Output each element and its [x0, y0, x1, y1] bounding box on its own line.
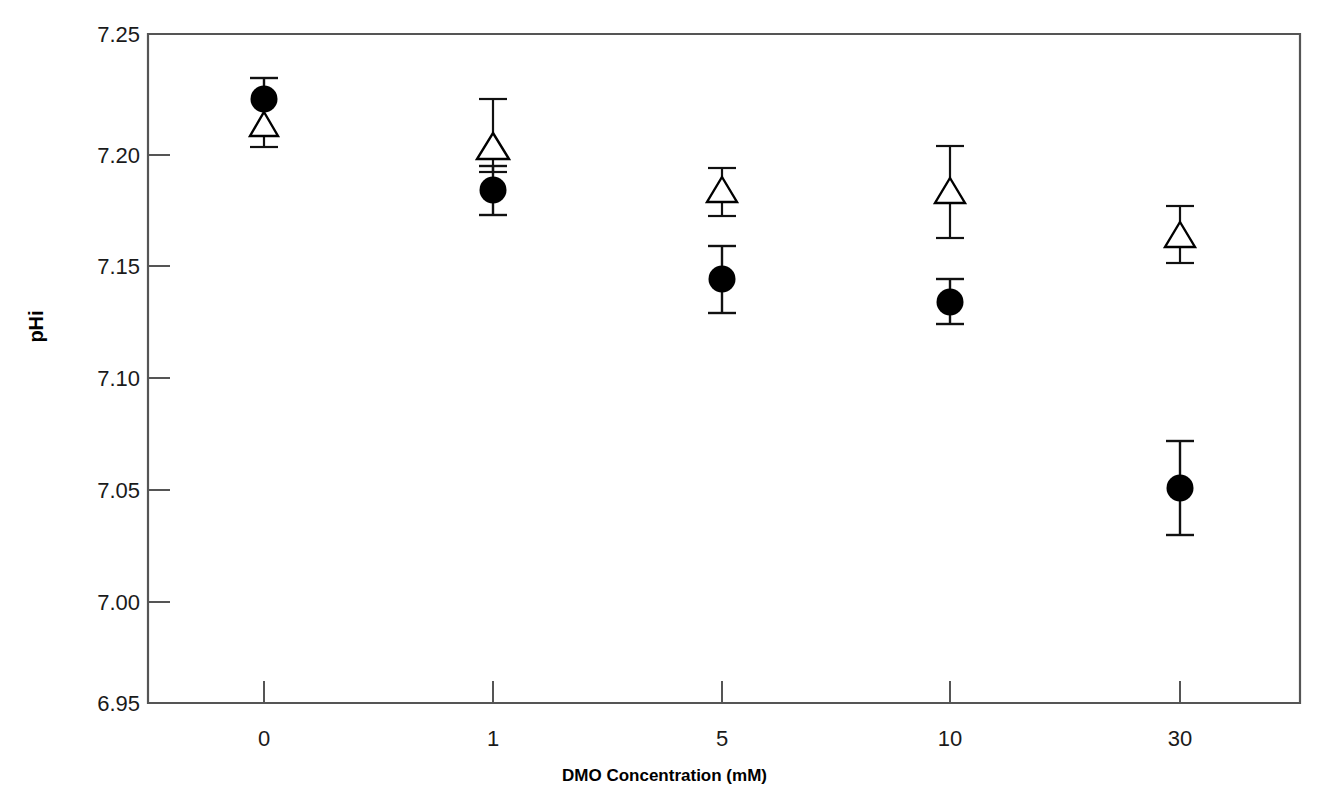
datapoint-circle-4 — [1166, 441, 1194, 535]
marker-open-triangle — [250, 112, 278, 136]
marker-open-triangle — [1165, 222, 1195, 247]
chart-figure: pHi DMO Concentration (mM) 7.25 7.20 7.1… — [0, 0, 1329, 811]
marker-open-triangle — [477, 133, 509, 159]
marker-filled-circle — [937, 289, 964, 316]
marker-open-triangle — [707, 177, 737, 202]
x-axis-ticks — [264, 681, 1180, 703]
plot-frame — [148, 34, 1300, 703]
datapoint-triangle-3 — [935, 146, 965, 238]
y-axis-ticks — [148, 155, 170, 602]
datapoint-triangle-1 — [477, 99, 509, 172]
datapoint-triangle-4 — [1165, 206, 1195, 263]
marker-filled-circle — [480, 177, 507, 204]
datapoint-circle-2 — [708, 246, 736, 313]
marker-filled-circle — [251, 86, 278, 113]
marker-filled-circle — [1167, 475, 1194, 502]
datapoint-triangle-0 — [250, 112, 278, 147]
datapoint-circle-0 — [250, 78, 278, 113]
datapoint-circle-1 — [479, 166, 507, 215]
datapoint-circle-3 — [936, 279, 964, 324]
marker-filled-circle — [709, 266, 736, 293]
datapoint-triangle-2 — [707, 168, 737, 216]
marker-open-triangle — [935, 178, 965, 203]
plot-canvas — [0, 0, 1329, 811]
